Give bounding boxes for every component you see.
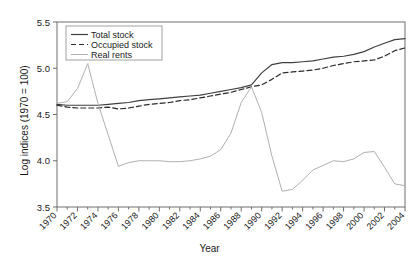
x-axis-title: Year — [0, 243, 419, 254]
x-tick-label: 1980 — [140, 210, 161, 231]
x-tick-label: 1996 — [303, 210, 324, 231]
x-tick-label: 1988 — [221, 210, 242, 231]
y-axis-title: Log indices (1970 = 100) — [19, 51, 30, 191]
x-tick-label: 1992 — [262, 210, 283, 231]
x-tick-label: 1970 — [37, 210, 58, 231]
x-tick-label: 2000 — [344, 210, 365, 231]
x-tick-label: 1972 — [58, 210, 79, 231]
x-tick-label: 1998 — [324, 210, 345, 231]
legend-label-total-stock: Total stock — [91, 30, 134, 40]
x-tick-label: 1974 — [78, 210, 99, 231]
x-tick-label: 1990 — [242, 210, 263, 231]
x-tick-label: 2002 — [365, 210, 386, 231]
y-tick-label: 4.5 — [37, 109, 50, 120]
y-tick-label: 3.5 — [37, 202, 50, 213]
line-chart: 3.54.04.55.05.51970197219741976197819801… — [0, 0, 419, 268]
y-tick-label: 5.5 — [37, 17, 50, 28]
series-line-real-rents — [57, 64, 405, 192]
x-tick-label: 2004 — [385, 210, 406, 231]
legend-label-real-rents: Real rents — [91, 50, 133, 60]
x-tick-label: 1986 — [201, 210, 222, 231]
x-tick-label: 1982 — [160, 210, 181, 231]
chart-figure: 3.54.04.55.05.51970197219741976197819801… — [0, 0, 419, 268]
y-tick-label: 4.0 — [37, 155, 50, 166]
x-tick-label: 1994 — [283, 210, 304, 231]
x-tick-label: 1976 — [99, 210, 120, 231]
x-tick-label: 1984 — [180, 210, 201, 231]
x-tick-label: 1978 — [119, 210, 140, 231]
legend-label-occupied-stock: Occupied stock — [91, 40, 153, 50]
y-tick-label: 5.0 — [37, 63, 50, 74]
